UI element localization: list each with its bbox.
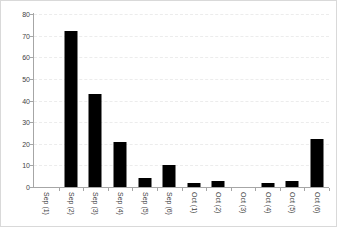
x-axis-tick-label: Sep (1) (34, 191, 59, 227)
y-axis-tick-mark (30, 36, 33, 37)
bar (64, 31, 77, 187)
bar-slot (132, 14, 157, 187)
bar-slot (206, 14, 231, 187)
x-axis-tick-label: Oct (4) (255, 191, 280, 227)
y-axis-line (33, 13, 34, 188)
x-axis-tick-label-text: Oct (3) (239, 192, 246, 213)
y-axis-tick-label: 10 (4, 162, 30, 169)
bar (114, 142, 127, 187)
y-axis-tick-label: 70 (4, 32, 30, 39)
x-axis-tick-label-text: Oct (4) (264, 192, 271, 213)
y-axis-tick-label: 60 (4, 54, 30, 61)
y-axis-tick-mark (30, 79, 33, 80)
bar-slot (304, 14, 329, 187)
bar (310, 139, 323, 187)
x-axis-tick-label: Sep (4) (108, 191, 133, 227)
bar-slot (255, 14, 280, 187)
y-axis-tick-mark (30, 101, 33, 102)
x-axis-tick-label-text: Oct (2) (215, 192, 222, 213)
y-axis-tick-mark (30, 57, 33, 58)
plot-area (34, 14, 329, 187)
x-axis-tick-labels: Sep (1)Sep (2)Sep (3)Sep (4)Sep (5)Sep (… (34, 191, 329, 227)
x-axis-tick-label: Oct (3) (231, 191, 256, 227)
bar-slot (59, 14, 84, 187)
y-axis-tick-label: 20 (4, 140, 30, 147)
x-axis-tick-label-text: Oct (5) (289, 192, 296, 213)
bar-slot (231, 14, 256, 187)
y-axis-tick-mark (30, 165, 33, 166)
bar (138, 178, 151, 187)
bar (89, 94, 102, 187)
x-axis-tick-label-text: Sep (6) (166, 192, 173, 215)
y-axis-tick-labels: 01020304050607080 (1, 1, 30, 227)
x-axis-tick-label: Sep (6) (157, 191, 182, 227)
y-axis-tick-mark (30, 14, 33, 15)
y-axis-tick-label: 0 (4, 184, 30, 191)
y-axis-tick-mark (30, 122, 33, 123)
x-axis-tick-label: Oct (1) (182, 191, 207, 227)
y-axis-tick-label: 40 (4, 97, 30, 104)
x-axis-tick-mark (329, 188, 330, 191)
x-axis-tick-label: Sep (2) (59, 191, 84, 227)
bar-slot (108, 14, 133, 187)
x-axis-tick-label-text: Sep (4) (117, 192, 124, 215)
bar-chart: 01020304050607080 Sep (1)Sep (2)Sep (3)S… (0, 0, 337, 227)
x-axis-tick-label: Oct (5) (280, 191, 305, 227)
x-axis-tick-label-text: Oct (1) (190, 192, 197, 213)
x-axis-tick-label-text: Sep (5) (141, 192, 148, 215)
x-axis-tick-label: Oct (2) (206, 191, 231, 227)
x-axis-tick-label: Sep (3) (83, 191, 108, 227)
x-axis-tick-label-text: Oct (6) (313, 192, 320, 213)
x-axis-tick-label: Sep (5) (132, 191, 157, 227)
bar-slot (182, 14, 207, 187)
bar-slot (157, 14, 182, 187)
y-axis-tick-mark (30, 144, 33, 145)
y-axis-tick-label: 80 (4, 11, 30, 18)
x-axis-tick-label-text: Sep (2) (67, 192, 74, 215)
bar (163, 165, 176, 187)
x-axis-tick-label: Oct (6) (304, 191, 329, 227)
bar-slot (34, 14, 59, 187)
x-axis-tick-label-text: Sep (3) (92, 192, 99, 215)
y-axis-tick-label: 50 (4, 75, 30, 82)
y-axis-tick-mark (30, 187, 33, 188)
bar-slot (83, 14, 108, 187)
x-axis-tick-label-text: Sep (1) (43, 192, 50, 215)
y-axis-tick-label: 30 (4, 119, 30, 126)
bar-slot (280, 14, 305, 187)
